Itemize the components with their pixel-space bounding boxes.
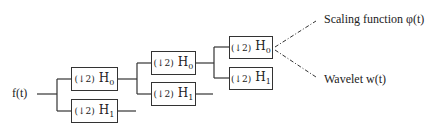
downsample-label: (↓2) [75,106,95,116]
input-signal-label: f(t) [12,86,27,101]
level1-highpass-filter-box: (↓2) H1 [71,99,118,123]
level1-lowpass-filter-box: (↓2) H0 [71,67,118,91]
downsample-label: (↓2) [154,58,174,68]
level3-lowpass-filter-box: (↓2) H0 [229,36,273,59]
filter-label: H1 [255,70,271,86]
level3-highpass-filter-box: (↓2) H1 [229,67,273,90]
wavelet-label: Wavelet w(t) [324,72,386,87]
downsample-label: (↓2) [231,43,251,53]
filter-label: H0 [178,55,194,71]
filter-label: H0 [99,71,115,87]
level2-lowpass-filter-box: (↓2) H0 [151,51,196,75]
level2-highpass-filter-box: (↓2) H1 [151,82,196,106]
downsample-label: (↓2) [75,74,95,84]
filter-label: H0 [255,39,271,55]
filter-label: H1 [178,86,194,102]
downsample-label: (↓2) [231,74,251,84]
filter-label: H1 [99,103,115,119]
downsample-label: (↓2) [154,89,174,99]
scaling-function-label: Scaling function φ(t) [324,12,424,27]
